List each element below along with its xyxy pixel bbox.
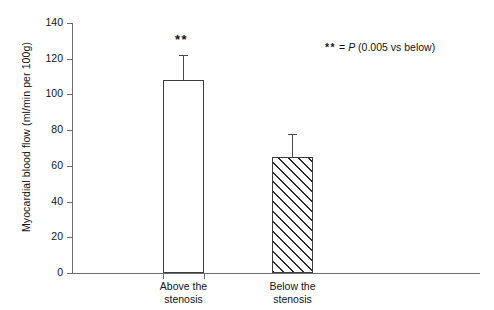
y-tick-140: 140 — [67, 23, 72, 24]
y-tick-80: 80 — [67, 130, 72, 131]
plot-area: 0 20 40 60 80 100 120 140 ** — [72, 23, 480, 273]
error-bar-cap-below — [288, 134, 297, 135]
significance-legend-value: (0.005 vs below) — [355, 41, 435, 53]
y-tick-20: 20 — [67, 237, 72, 238]
category-label-above-line2: stenosis — [138, 293, 229, 306]
x-tick-left-above — [163, 273, 164, 279]
y-tick-label-20: 20 — [51, 230, 63, 242]
bar-below-the-stenosis[interactable] — [272, 157, 313, 273]
chart-figure: Myocardial blood flow (ml/min per 100g) … — [0, 0, 494, 310]
y-tick-120: 120 — [67, 59, 72, 60]
error-bar-cap-above — [179, 55, 188, 56]
y-axis-line — [72, 23, 73, 273]
y-tick-label-80: 80 — [51, 123, 63, 135]
category-label-above-line1: Above the — [138, 280, 229, 293]
x-tick-right-above — [204, 273, 205, 279]
significance-legend-stars: ** — [325, 41, 336, 53]
significance-legend-equals: = — [336, 41, 348, 53]
significance-marker-above: ** — [175, 33, 188, 46]
y-axis-label: Myocardial blood flow (ml/min per 100g) — [20, 0, 36, 292]
y-tick-0: 0 — [67, 273, 72, 274]
y-tick-label-0: 0 — [57, 266, 63, 278]
error-bar-stem-above — [183, 55, 184, 80]
y-tick-label-60: 60 — [51, 159, 63, 171]
y-tick-label-120: 120 — [45, 52, 63, 64]
y-tick-60: 60 — [67, 166, 72, 167]
x-axis-category-label-above: Above the stenosis — [138, 280, 229, 305]
y-tick-40: 40 — [67, 202, 72, 203]
significance-legend: ** = P (0.005 vs below) — [325, 41, 435, 53]
y-tick-label-40: 40 — [51, 195, 63, 207]
y-tick-100: 100 — [67, 94, 72, 95]
category-label-below-line2: stenosis — [247, 293, 338, 306]
bar-above-the-stenosis[interactable] — [163, 80, 204, 273]
x-axis-category-label-below: Below the stenosis — [247, 280, 338, 305]
y-tick-label-140: 140 — [45, 16, 63, 28]
error-bar-stem-below — [292, 134, 293, 157]
y-tick-label-100: 100 — [45, 87, 63, 99]
category-label-below-line1: Below the — [247, 280, 338, 293]
x-axis-line — [72, 273, 480, 274]
